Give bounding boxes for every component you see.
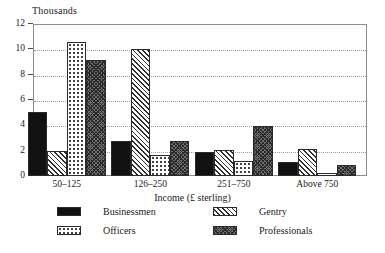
bar-gentry-1	[131, 49, 151, 176]
legend-item-officers[interactable]: Officers	[57, 225, 136, 236]
legend-label: Businessmen	[103, 206, 156, 217]
bar-professionals-2	[253, 126, 273, 176]
y-tick-label: 8	[3, 68, 25, 80]
x-tick-label-2: 251–750	[194, 179, 274, 189]
x-tick-label-3: Above 750	[277, 179, 357, 189]
legend-item-businessmen[interactable]: Businessmen	[57, 206, 156, 217]
x-axis-title: Income (£ sterling)	[0, 192, 385, 203]
y-tick-label: 10	[3, 42, 25, 54]
legend-swatch-icon	[57, 207, 81, 216]
y-tick-label: 0	[3, 169, 25, 181]
bar-gentry-3	[298, 149, 318, 176]
legend-label: Professionals	[259, 225, 312, 236]
y-tick-label: 4	[3, 118, 25, 130]
bar-businessmen-1	[111, 141, 131, 176]
legend-swatch-icon	[213, 207, 237, 216]
x-tick-label-1: 126–250	[110, 179, 190, 189]
y-tick-label: 2	[3, 144, 25, 156]
legend: BusinessmenGentryOfficersProfessionals	[57, 206, 357, 244]
legend-label: Officers	[103, 225, 136, 236]
legend-row: BusinessmenGentry	[57, 206, 357, 225]
bar-professionals-0	[86, 60, 106, 176]
legend-swatch-icon	[57, 226, 81, 235]
bar-gentry-2	[214, 150, 234, 176]
bar-group	[195, 24, 273, 176]
bar-chart: Thousands 024681012 50–125126–250251–750…	[0, 0, 385, 253]
bar-professionals-1	[170, 141, 190, 176]
bar-group	[278, 24, 356, 176]
bar-officers-3	[317, 173, 337, 176]
legend-item-professionals[interactable]: Professionals	[213, 225, 312, 236]
y-tick-label: 12	[3, 17, 25, 29]
bar-group	[111, 24, 189, 176]
legend-swatch-icon	[213, 226, 237, 235]
bar-businessmen-2	[195, 152, 215, 176]
bar-officers-1	[150, 155, 170, 176]
y-axis-unit-caption: Thousands	[32, 5, 77, 16]
bar-businessmen-0	[28, 112, 48, 176]
bar-group	[28, 24, 106, 176]
bar-businessmen-3	[278, 162, 298, 176]
legend-row: OfficersProfessionals	[57, 225, 357, 244]
y-tick-label: 6	[3, 93, 25, 105]
x-tick-label-0: 50–125	[27, 179, 107, 189]
bar-gentry-0	[47, 151, 67, 176]
legend-item-gentry[interactable]: Gentry	[213, 206, 287, 217]
bar-professionals-3	[337, 165, 357, 176]
bar-series-layer	[33, 24, 367, 176]
legend-label: Gentry	[259, 206, 287, 217]
bar-officers-2	[234, 161, 254, 176]
bar-officers-0	[67, 42, 87, 176]
